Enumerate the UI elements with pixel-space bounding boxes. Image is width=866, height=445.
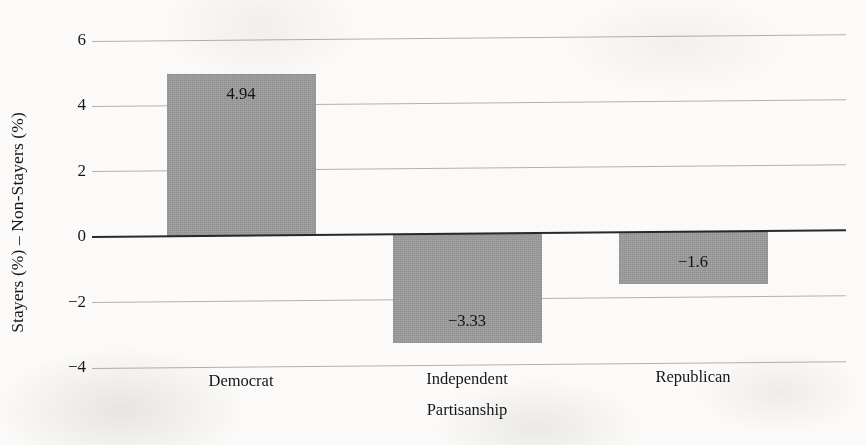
chart-figure: Stayers (%) – Non-Stayers (%) 6420−2−4 4…: [0, 0, 866, 445]
y-axis-tick-label: 2: [38, 161, 86, 181]
y-axis-tick-label: −2: [38, 292, 86, 312]
gridline: [92, 361, 846, 369]
y-axis-title: Stayers (%) – Non-Stayers (%): [0, 0, 34, 445]
y-axis-tick-label: −4: [38, 357, 86, 377]
bar-value-label: −3.33: [448, 311, 486, 331]
x-axis-tick-label: Independent: [426, 369, 508, 389]
y-axis-tick-label: 4: [38, 95, 86, 115]
y-axis-tick-label: 6: [38, 30, 86, 50]
x-axis-tick-label: Democrat: [208, 371, 273, 391]
x-axis-title: Partisanship: [427, 400, 508, 420]
y-axis-tick-label: 0: [38, 226, 86, 246]
plot-area: 4.94Democrat−3.33Independent−1.6Republic…: [92, 0, 846, 445]
bar-value-label: 4.94: [227, 84, 256, 104]
x-axis-tick-label: Republican: [655, 367, 730, 387]
gridline: [92, 34, 846, 42]
bar-value-label: −1.6: [678, 252, 708, 272]
y-axis-tick-labels: 6420−2−4: [36, 0, 86, 445]
